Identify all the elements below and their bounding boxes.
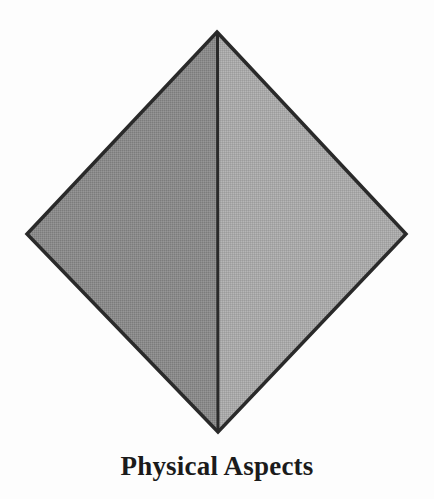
- diamond-right-half-group: [217, 32, 406, 432]
- diamond-diagram: [0, 0, 434, 445]
- figure-caption: Physical Aspects: [0, 447, 434, 485]
- figure-physical-aspects: Physical Aspects: [0, 0, 434, 499]
- diamond-left-half: [27, 32, 218, 432]
- diamond-right-half: [217, 32, 406, 432]
- diamond-left-half-group: [27, 32, 218, 432]
- vertical-center-divider: [218, 32, 219, 432]
